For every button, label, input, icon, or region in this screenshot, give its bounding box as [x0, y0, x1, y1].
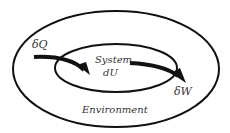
internal-energy-label: dU	[103, 67, 118, 78]
heat-arrow	[34, 57, 90, 75]
environment-label: Environment	[81, 104, 149, 115]
heat-label: δQ	[32, 38, 48, 51]
system-label: System	[95, 54, 132, 65]
thermo-diagram: δQ System dU δW Environment	[0, 0, 230, 133]
work-label: δW	[174, 85, 194, 98]
